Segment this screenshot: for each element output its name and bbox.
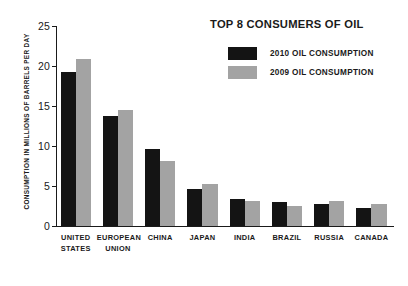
bar-group [187,26,217,226]
y-tick-mark [52,226,57,227]
legend-item: 2010 OIL CONSUMPTION [228,44,374,63]
y-tick-label: 5 [44,180,50,192]
x-category-label-line: JAPAN [181,233,223,244]
bar [61,72,76,226]
bar [371,204,386,226]
legend-label: 2010 OIL CONSUMPTION [270,49,374,58]
y-tick-label: 15 [38,100,50,112]
bar-group [145,26,175,226]
x-category-label: INDIA [224,233,266,244]
bar [329,201,344,226]
legend-swatch [228,47,257,60]
x-category-label: CANADA [350,233,392,244]
x-category-label-line: CANADA [350,233,392,244]
bar [145,149,160,226]
bar [103,116,118,225]
bar [287,206,302,226]
x-category-label: CHINA [139,233,181,244]
bar [76,59,91,226]
bar [187,189,202,226]
x-category-label-line: BRAZIL [266,233,308,244]
bar [230,199,245,225]
bar [118,110,133,226]
legend-item: 2009 OIL CONSUMPTION [228,63,374,82]
y-tick-label: 25 [38,20,50,32]
legend-swatch [228,66,257,79]
x-category-label-line: INDIA [224,233,266,244]
x-category-label: BRAZIL [266,233,308,244]
chart-title: TOP 8 CONSUMERS OF OIL [210,18,364,30]
x-category-label: UNITEDSTATES [55,233,97,254]
bar [202,184,217,226]
legend-label: 2009 OIL CONSUMPTION [270,68,374,77]
y-axis-title: CONSUMPTION IN MILLIONS OF BARRELS PER D… [23,22,30,222]
x-category-label-line: UNION [97,244,139,255]
x-category-label: EUROPEANUNION [97,233,139,254]
bar-group [61,26,91,226]
x-axis-line [56,226,394,227]
x-category-label-line: RUSSIA [308,233,350,244]
x-category-label-line: UNITED [55,233,97,244]
bar [272,202,287,225]
y-tick-label: 20 [38,60,50,72]
x-axis-category-labels: UNITEDSTATESEUROPEANUNIONCHINAJAPANINDIA… [56,233,394,273]
oil-consumption-bar-chart: CONSUMPTION IN MILLIONS OF BARRELS PER D… [0,0,408,286]
chart-legend: 2010 OIL CONSUMPTION2009 OIL CONSUMPTION [228,44,374,82]
y-tick-label: 10 [38,140,50,152]
x-category-label: RUSSIA [308,233,350,244]
y-tick-label: 0 [44,220,50,232]
bar [245,201,260,226]
bar [356,208,371,226]
x-category-label-line: STATES [55,244,97,255]
x-category-label-line: EUROPEAN [97,233,139,244]
x-category-label-line: CHINA [139,233,181,244]
bar [160,161,175,226]
bar [314,204,329,226]
bar-group [103,26,133,226]
x-category-label: JAPAN [181,233,223,244]
